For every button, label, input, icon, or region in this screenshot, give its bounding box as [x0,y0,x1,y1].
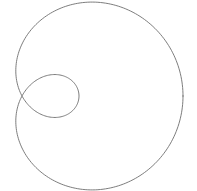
figure-canvas [0,0,197,191]
limacon-plot-svg [0,0,197,191]
plot-background [0,0,197,191]
